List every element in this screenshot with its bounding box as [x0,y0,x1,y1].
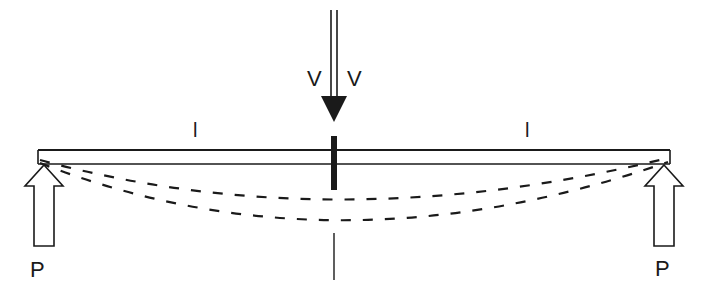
span-label-left: l [193,119,197,141]
span-label-right: l [525,119,529,141]
load-label-left: V [307,66,322,91]
support-arrow-left [25,165,63,246]
arrow-up-icon [25,165,63,246]
load-arrow [321,10,347,122]
load-label-right: V [347,66,362,91]
support-arrow-right [645,165,683,246]
deflection-curve-lower [40,162,668,220]
beam [38,150,670,164]
midspan-load-plate [331,136,337,190]
beam-diagram: V V l l P P [0,0,709,298]
support-label-left: P [30,257,45,282]
arrowhead-down-icon [321,96,347,122]
arrow-up-icon [645,165,683,246]
support-label-right: P [655,256,670,281]
